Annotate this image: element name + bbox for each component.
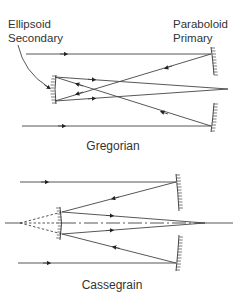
secondary-label-line2: Secondary [8, 31, 63, 45]
primary-label-line1: Paraboloid [173, 17, 228, 31]
gregorian-caption: Gregorian [86, 139, 139, 153]
cassegrain-primary-mirror-top [176, 174, 183, 211]
cassegrain-primary-mirror-bottom [176, 235, 183, 271]
secondary-label: Ellipsoid Secondary [8, 17, 63, 45]
primary-label-line2: Primary [173, 31, 228, 45]
secondary-label-line1: Ellipsoid [8, 17, 63, 31]
gregorian-primary-mirror-top [211, 47, 218, 75]
primary-label: Paraboloid Primary [173, 17, 228, 45]
gregorian-primary-mirror-bottom [211, 103, 218, 132]
secondary-pointer [18, 45, 48, 87]
cassegrain-diagram [5, 174, 233, 271]
cassegrain-secondary-mirror [56, 207, 62, 240]
cassegrain-caption: Cassegrain [82, 278, 143, 292]
gregorian-secondary-mirror [50, 75, 56, 104]
gregorian-diagram [18, 45, 228, 132]
